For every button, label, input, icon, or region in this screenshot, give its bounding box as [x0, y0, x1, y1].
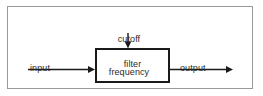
input-signal-label-line1: input	[30, 63, 54, 74]
cutoff-frequency-label-line2: frequency	[103, 67, 155, 78]
output-signal-label-line1: output	[180, 63, 206, 74]
cutoff-frequency-label-line1: cutoff	[103, 34, 155, 45]
filter-block-diagram: filter cutoff frequency input signal out…	[0, 0, 263, 96]
output-signal-label: output signal	[180, 41, 206, 96]
input-signal-label: input signal	[30, 41, 54, 96]
cutoff-frequency-label: cutoff frequency	[103, 12, 155, 96]
